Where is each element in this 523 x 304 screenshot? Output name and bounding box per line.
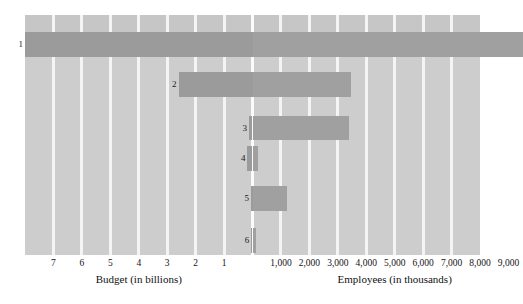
- bar-budget-row-1: [25, 32, 253, 57]
- row-number-2: 2: [163, 80, 177, 89]
- tick-budget-7: 7: [51, 258, 56, 268]
- bar-employees-row-2: [253, 72, 351, 97]
- bar-employees-row-5: [253, 186, 288, 211]
- bar-employees-row-4: [253, 146, 258, 171]
- row-number-1: 1: [9, 40, 23, 49]
- tick-employees-1000: 1,000: [270, 258, 291, 268]
- bar-budget-row-2: [179, 72, 253, 97]
- employees-axis-caption: Employees (in thousands): [338, 273, 452, 285]
- tick-employees-5000: 5,000: [384, 258, 405, 268]
- tick-employees-3000: 3,000: [327, 258, 348, 268]
- tick-budget-6: 6: [80, 258, 85, 268]
- tick-employees-4000: 4,000: [356, 258, 377, 268]
- tick-employees-8000: 8,000: [469, 258, 490, 268]
- row-number-5: 5: [235, 194, 249, 203]
- tick-budget-4: 4: [136, 258, 141, 268]
- budget-axis-caption: Budget (in billions): [96, 273, 182, 285]
- tick-employees-2000: 2,000: [299, 258, 320, 268]
- tick-budget-1: 1: [222, 258, 227, 268]
- bar-employees-row-6: [253, 228, 256, 253]
- row-number-6: 6: [235, 236, 249, 245]
- row-number-4: 4: [231, 154, 245, 163]
- tick-employees-6000: 6,000: [412, 258, 433, 268]
- tick-budget-3: 3: [165, 258, 170, 268]
- bar-employees-row-3: [253, 116, 350, 140]
- bar-employees-row-1: [253, 32, 523, 57]
- row-number-3: 3: [233, 124, 247, 133]
- tick-budget-5: 5: [108, 258, 113, 268]
- plot-area: 123456: [25, 15, 480, 255]
- tick-budget-2: 2: [193, 258, 198, 268]
- tick-employees-7000: 7,000: [441, 258, 462, 268]
- tick-employees-9000: 9,000: [498, 258, 519, 268]
